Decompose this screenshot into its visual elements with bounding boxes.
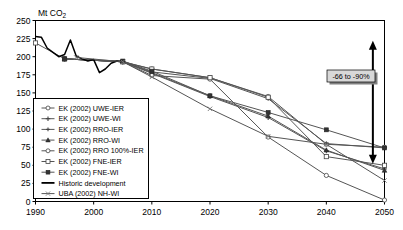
series-marker-open-circle	[46, 106, 50, 110]
y-tick-label: 100	[16, 124, 30, 134]
x-tick-label: 2010	[142, 207, 161, 217]
y-axis-title: Mt CO2	[38, 8, 67, 19]
series-marker-filled-square	[324, 128, 328, 132]
y-tick-label: 175	[16, 70, 30, 80]
y-tick-label: 250	[16, 16, 30, 26]
series-marker-open-circle	[324, 173, 328, 177]
series-marker-open-square	[382, 163, 386, 167]
series-marker-filled-square	[266, 110, 270, 114]
y-tick-label: 0	[26, 197, 31, 207]
series-marker-open-square	[266, 95, 270, 99]
y-tick-label: 75	[21, 142, 31, 152]
series-marker-open-circle	[46, 149, 50, 153]
legend: EK (2002) UWE-IEREK (2002) UWE-WIEK (200…	[34, 99, 149, 199]
series-marker-open-square	[208, 76, 212, 80]
y-tick-label: 225	[16, 34, 30, 44]
co2-scenario-chart: Mt CO2 0255075100125150175200225250 1990…	[0, 0, 403, 230]
y-tick-label: 150	[16, 88, 30, 98]
legend-item-label: EK (2002) RRO-IER	[59, 125, 124, 134]
x-tick-label: 2050	[375, 207, 394, 217]
chart-svg: Mt CO2 0255075100125150175200225250 1990…	[0, 0, 403, 230]
y-tick-label: 125	[16, 106, 30, 116]
series-marker-filled-square	[208, 94, 212, 98]
x-tick-label: 1990	[26, 207, 45, 217]
series-marker-open-circle	[382, 198, 386, 202]
series-marker-filled-square	[63, 57, 67, 61]
x-tick-label: 2040	[317, 207, 336, 217]
legend-item-label: Historic development	[59, 179, 126, 188]
y-tick-label: 200	[16, 52, 30, 62]
legend-item-label: EK (2002) FNE-WI	[59, 168, 119, 177]
series-marker-open-square	[46, 160, 50, 164]
legend-item-label: EK (2002) RRO 100%-IER	[59, 146, 144, 155]
x-tick-label: 2020	[201, 207, 220, 217]
series-marker-open-square	[33, 41, 37, 45]
series-marker-filled-square	[150, 69, 154, 73]
legend-item-label: EK (2002) RRO-WI	[59, 136, 121, 145]
legend-item-label: EK (2002) UWE-WI	[59, 114, 121, 123]
legend-item-label: EK (2002) UWE-IER	[59, 104, 125, 113]
series-marker-filled-square	[383, 146, 387, 150]
x-tick-label: 2000	[84, 207, 103, 217]
legend-item-label: UBA (2002) NH-WI	[59, 189, 120, 198]
x-tick-label: 2030	[259, 207, 278, 217]
legend-item-label: EK (2002) FNE-IER	[59, 157, 122, 166]
y-tick-label: 25	[21, 178, 31, 188]
y-tick-label: 50	[21, 160, 31, 170]
series-marker-filled-square	[46, 170, 50, 174]
series-marker-open-square	[324, 155, 328, 159]
annotation-label: -66 to -90%	[332, 72, 370, 81]
